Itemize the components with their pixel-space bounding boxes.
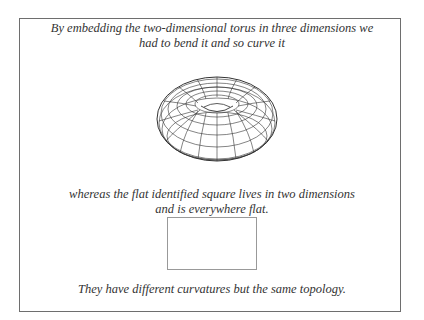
caption-bottom: They have different curvatures but the s… xyxy=(0,282,424,297)
caption-middle-line-1: whereas the flat identified square lives… xyxy=(0,187,424,202)
caption-top-line-2: had to bend it and so curve it xyxy=(0,36,424,51)
caption-top: By embedding the two-dimensional torus i… xyxy=(0,21,424,51)
caption-middle: whereas the flat identified square lives… xyxy=(0,187,424,217)
caption-top-line-1: By embedding the two-dimensional torus i… xyxy=(0,21,424,36)
flat-square xyxy=(167,217,257,270)
caption-middle-line-2: and is everywhere flat. xyxy=(0,202,424,217)
torus-icon xyxy=(154,73,280,169)
